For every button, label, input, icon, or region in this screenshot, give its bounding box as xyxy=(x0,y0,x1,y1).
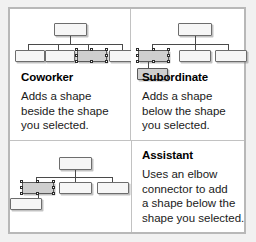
selection-handle-bottom-right xyxy=(105,60,108,63)
subordinate-text-block: Subordinate Adds a shape below the shape… xyxy=(142,71,240,133)
selection-handle-bottom-center xyxy=(152,60,155,63)
selection-handle-top-left xyxy=(20,180,23,183)
coworker-node-root xyxy=(54,23,87,36)
assistant-connector-stem xyxy=(75,170,76,177)
panel-coworker[interactable]: Coworker Adds a shape beside the shape y… xyxy=(10,9,131,141)
selection-handle-top-center xyxy=(90,48,93,51)
subordinate-node-child-3 xyxy=(215,50,247,62)
assistant-description-line-3: a shape below the xyxy=(142,196,242,211)
coworker-node-child-2 xyxy=(45,50,75,62)
panel-subordinate[interactable]: Subordinate Adds a shape below the shape… xyxy=(131,9,244,141)
selection-handle-bottom-center xyxy=(90,60,93,63)
coworker-description-line-2: beside the shape xyxy=(21,104,125,119)
selection-handle-top-right xyxy=(52,180,55,183)
assistant-node-new xyxy=(10,198,42,210)
selection-handle-mid-right xyxy=(105,54,108,57)
assistant-heading: Assistant xyxy=(142,149,242,162)
subordinate-connector-stem xyxy=(195,36,196,44)
selection-handle-top-left xyxy=(75,48,78,51)
panel-assistant[interactable]: Assistant Uses an elbow connector to add… xyxy=(10,141,244,232)
subordinate-description-line-3: you selected. xyxy=(142,118,240,133)
selection-handle-top-center xyxy=(152,48,155,51)
subordinate-node-root xyxy=(178,23,212,36)
coworker-heading: Coworker xyxy=(21,71,125,84)
selection-handle-mid-left xyxy=(20,186,23,189)
layout-options-gallery: Coworker Adds a shape beside the shape y… xyxy=(0,0,256,242)
coworker-connector-stem xyxy=(70,36,71,44)
assistant-diagram xyxy=(14,149,129,209)
subordinate-description-line-1: Adds a shape xyxy=(142,89,240,104)
assistant-description-line-1: Uses an elbow xyxy=(142,167,242,182)
assistant-node-root xyxy=(59,157,92,170)
subordinate-node-child-2 xyxy=(179,50,211,62)
selection-handle-mid-left xyxy=(136,54,139,57)
coworker-text-block: Coworker Adds a shape beside the shape y… xyxy=(21,71,125,133)
coworker-node-child-1 xyxy=(15,50,45,62)
selection-handle-top-right xyxy=(105,48,108,51)
selection-handle-mid-right xyxy=(167,54,170,57)
subordinate-connector-bus xyxy=(152,44,228,45)
selection-handle-top-right xyxy=(167,48,170,51)
assistant-connector-bus xyxy=(36,177,112,178)
selection-handle-bottom-left xyxy=(20,192,23,195)
subordinate-description: Adds a shape below the shape you selecte… xyxy=(142,89,240,133)
selection-handle-bottom-center xyxy=(36,192,39,195)
assistant-description-line-2: connector to add xyxy=(142,182,242,197)
selection-handle-top-center xyxy=(36,180,39,183)
assistant-panel-divider xyxy=(131,141,132,232)
selection-handle-mid-right xyxy=(52,186,55,189)
assistant-description-line-4: shape you selected. xyxy=(142,211,242,226)
coworker-description: Adds a shape beside the shape you select… xyxy=(21,89,125,133)
assistant-node-child-3 xyxy=(97,182,129,194)
coworker-description-line-3: you selected. xyxy=(21,118,125,133)
gallery-card: Coworker Adds a shape beside the shape y… xyxy=(8,7,246,234)
coworker-connector-bus xyxy=(28,44,122,45)
selection-handle-mid-left xyxy=(75,54,78,57)
assistant-text-block: Assistant Uses an elbow connector to add… xyxy=(142,149,242,225)
subordinate-heading: Subordinate xyxy=(142,71,240,84)
coworker-diagram xyxy=(14,23,129,68)
selection-handle-bottom-right xyxy=(52,192,55,195)
selection-handle-bottom-right xyxy=(167,60,170,63)
selection-handle-bottom-left xyxy=(75,60,78,63)
assistant-description: Uses an elbow connector to add a shape b… xyxy=(142,167,242,225)
selection-handle-top-left xyxy=(136,48,139,51)
coworker-description-line-1: Adds a shape xyxy=(21,89,125,104)
selection-handle-bottom-left xyxy=(136,60,139,63)
subordinate-description-line-2: below the shape xyxy=(142,104,240,119)
assistant-node-child-2 xyxy=(59,182,92,194)
subordinate-diagram xyxy=(135,23,244,73)
